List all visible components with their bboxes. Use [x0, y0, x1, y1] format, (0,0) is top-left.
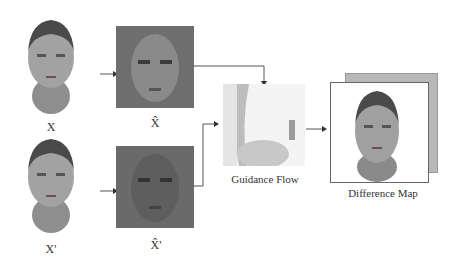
arrow-xhatprime-to-flow: [194, 120, 224, 194]
label-guidance-flow: Guidance Flow: [222, 173, 308, 185]
label-difference-map: Difference Map: [340, 187, 426, 199]
label-x-hat: X̂: [145, 116, 165, 131]
difference-map-image: [330, 82, 429, 183]
face-x-image: [22, 16, 80, 116]
x-hat-prime-image: [116, 146, 194, 228]
face-x-prime-image: [22, 137, 80, 237]
guidance-flow-image: [223, 84, 305, 166]
arrow-flow-to-diffmap: [306, 119, 328, 137]
label-x-hat-prime: X̂': [144, 238, 168, 253]
label-x: X: [40, 120, 62, 135]
x-hat-image: [116, 26, 194, 108]
label-x-prime: X': [40, 242, 62, 257]
